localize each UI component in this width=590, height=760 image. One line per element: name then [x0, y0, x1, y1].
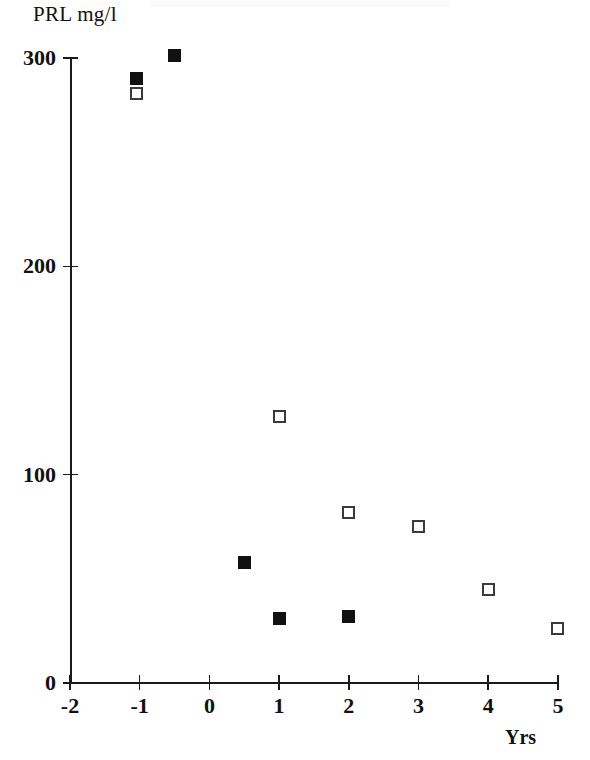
scatter-plot-figure: PRL mg/l Yrs 0100200300 -2-1012345 [0, 0, 590, 760]
x-tick-label: 2 [329, 695, 369, 717]
data-point-filled-square [168, 49, 181, 62]
y-axis-line [70, 58, 72, 683]
x-tick-label: 4 [468, 695, 508, 717]
x-tick-label: -2 [50, 695, 90, 717]
data-point-filled-square [238, 556, 251, 569]
x-axis-title: Yrs [505, 726, 536, 749]
x-tick-label: 0 [189, 695, 229, 717]
y-tick-mark [63, 474, 78, 476]
x-tick-mark [209, 675, 211, 690]
data-point-open-square [412, 520, 425, 533]
y-tick-label: 100 [0, 464, 56, 486]
x-tick-mark [69, 675, 71, 690]
data-point-open-square [342, 506, 355, 519]
x-axis-line [70, 682, 559, 684]
data-point-filled-square [130, 72, 143, 85]
data-point-filled-square [273, 612, 286, 625]
data-point-open-square [551, 622, 564, 635]
data-point-open-square [130, 87, 143, 100]
x-tick-label: -1 [120, 695, 160, 717]
y-tick-label: 300 [0, 47, 56, 69]
data-point-open-square [273, 410, 286, 423]
x-tick-mark [418, 675, 420, 690]
y-tick-label: 200 [0, 255, 56, 277]
x-tick-mark [139, 675, 141, 690]
y-tick-label: 0 [0, 672, 56, 694]
data-point-filled-square [342, 610, 355, 623]
x-tick-mark [487, 675, 489, 690]
x-tick-mark [278, 675, 280, 690]
y-tick-mark [63, 57, 78, 59]
y-tick-mark [63, 266, 78, 268]
data-point-open-square [482, 583, 495, 596]
x-tick-mark [348, 675, 350, 690]
x-tick-label: 1 [259, 695, 299, 717]
scan-artifact-strip [150, 0, 450, 7]
x-tick-mark [557, 675, 559, 690]
x-tick-label: 5 [538, 695, 578, 717]
y-axis-title: PRL mg/l [33, 2, 117, 27]
x-tick-label: 3 [399, 695, 439, 717]
